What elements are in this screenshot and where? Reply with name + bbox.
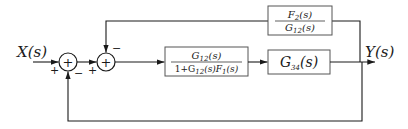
block-diagram: X(s) + + − + + − G12(s) 1+G12(s)F1(s) G3… — [0, 0, 408, 129]
sum1-minus-sign: − — [74, 67, 83, 80]
input-label: X(s) — [16, 43, 47, 61]
sum2-symbol: + — [101, 55, 112, 70]
top-feedback-wire-right — [332, 21, 360, 62]
sum1-symbol: + — [63, 55, 74, 70]
feedback-block: F2(s) G12(s) — [268, 6, 332, 35]
sum2-minus-sign: − — [112, 42, 121, 55]
g34-block: G34(s) — [268, 50, 330, 74]
summing-junction-2: + — [97, 53, 115, 71]
forward-block: G12(s) 1+G12(s)F1(s) — [165, 47, 248, 76]
sum2-plus-sign: + — [88, 64, 97, 77]
output-label: Y(s) — [365, 43, 394, 61]
sum1-plus-sign: + — [50, 64, 59, 77]
